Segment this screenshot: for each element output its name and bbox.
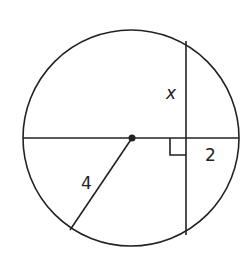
radius-line — [70, 138, 132, 230]
label-x: x — [165, 83, 177, 103]
geometry-diagram: x 2 4 — [0, 0, 251, 263]
right-angle-marker — [170, 138, 186, 155]
label-2: 2 — [205, 145, 216, 165]
label-4: 4 — [81, 173, 92, 193]
center-point — [129, 135, 136, 142]
